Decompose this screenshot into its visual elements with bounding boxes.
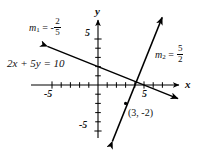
m2-numerator: 5: [177, 44, 184, 53]
m1-fraction: 25: [54, 17, 61, 38]
m2-equals: =: [168, 49, 174, 60]
m1-equals: =: [42, 22, 48, 33]
m1-subscript: 1: [36, 26, 40, 34]
point-label: (3, -2): [128, 108, 153, 118]
m2-subscript: 2: [162, 53, 166, 61]
x-tick-label-neg5: -5: [44, 89, 52, 99]
intersection-point-dot: [124, 102, 127, 105]
coordinate-graph-figure: y x 5 -5 -5 5 m1 = -25 2x + 5y = 10 m2 =…: [0, 0, 204, 152]
line-equation-label: 2x + 5y = 10: [7, 58, 65, 69]
x-axis-label: x: [185, 79, 191, 90]
slope-label-m2: m2 = 52: [155, 44, 184, 65]
x-axis: [31, 81, 179, 88]
x-tick-label-5: 5: [142, 89, 147, 99]
y-tick-label-neg5: -5: [79, 120, 87, 130]
y-axis-label: y: [95, 6, 100, 17]
m1-denominator: 5: [54, 28, 61, 37]
y-axis: [94, 20, 101, 138]
m2-denominator: 2: [177, 55, 184, 64]
y-tick-label-5: 5: [85, 28, 90, 38]
m2-fraction: 52: [177, 44, 184, 65]
m1-sign: -: [50, 22, 53, 33]
m1-numerator: 2: [54, 17, 61, 26]
slope-label-m1: m1 = -25: [29, 17, 61, 38]
line-m2: [112, 17, 162, 141]
